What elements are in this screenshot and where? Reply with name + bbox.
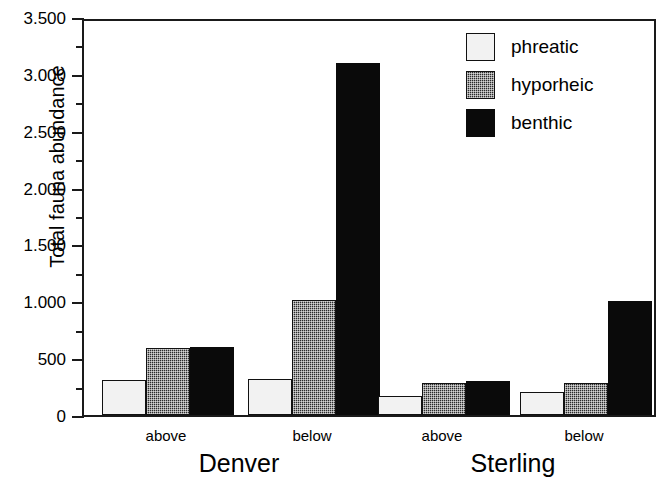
bar-phreatic-denver-below <box>248 379 292 415</box>
x-sublabel-above: above <box>422 427 463 444</box>
legend-label-phreatic: phreatic <box>511 36 579 58</box>
legend: phreatichyporheicbenthic <box>466 28 593 142</box>
legend-swatch-benthic-icon <box>466 109 495 137</box>
bar-benthic-denver-above <box>190 347 234 415</box>
bar-hyporheic-denver-above <box>146 348 190 415</box>
y-tick-label: 500 <box>0 350 66 370</box>
y-tick-label: 2.500 <box>0 123 66 143</box>
x-sublabel-below: below <box>564 427 603 444</box>
bar-benthic-sterling-above <box>466 381 510 415</box>
bar-benthic-sterling-below <box>608 301 652 415</box>
legend-swatch-hyporheic-icon <box>466 71 495 99</box>
legend-label-benthic: benthic <box>511 112 572 134</box>
chart-figure: Total fauna abundance 05001.0001.5002.00… <box>0 0 666 477</box>
legend-swatch-phreatic-icon <box>466 33 495 61</box>
bar-hyporheic-sterling-above <box>422 383 466 415</box>
y-axis-title: Total fauna abundance <box>46 2 69 332</box>
legend-label-hyporheic: hyporheic <box>511 74 593 96</box>
legend-item-phreatic: phreatic <box>466 28 593 66</box>
legend-item-hyporheic: hyporheic <box>466 66 593 104</box>
y-tick-label: 2.000 <box>0 180 66 200</box>
bar-benthic-denver-below <box>336 63 380 416</box>
y-tick-label: 3.000 <box>0 66 66 86</box>
x-group-label-sterling: Sterling <box>471 449 556 477</box>
y-tick-label: 1.000 <box>0 293 66 313</box>
bar-hyporheic-sterling-below <box>564 383 608 415</box>
bar-phreatic-sterling-below <box>520 392 564 415</box>
y-tick-label: 3.500 <box>0 9 66 29</box>
legend-item-benthic: benthic <box>466 104 593 142</box>
x-sublabel-above: above <box>146 427 187 444</box>
bar-phreatic-denver-above <box>102 380 146 415</box>
bar-phreatic-sterling-above <box>378 396 422 415</box>
y-tick-label: 1.500 <box>0 236 66 256</box>
x-group-label-denver: Denver <box>199 449 280 477</box>
y-tick-label: 0 <box>0 407 66 427</box>
x-sublabel-below: below <box>292 427 331 444</box>
bar-hyporheic-denver-below <box>292 300 336 415</box>
